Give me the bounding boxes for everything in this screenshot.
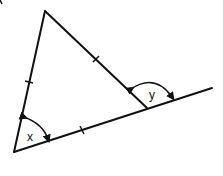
corner-mark [0,0,2,4]
angle-x-label: x [27,130,33,144]
left-side-tick [25,81,33,83]
angle-y-label: y [149,88,155,102]
triangle-diagram: x y [0,0,223,176]
base-extended-line [14,88,212,152]
